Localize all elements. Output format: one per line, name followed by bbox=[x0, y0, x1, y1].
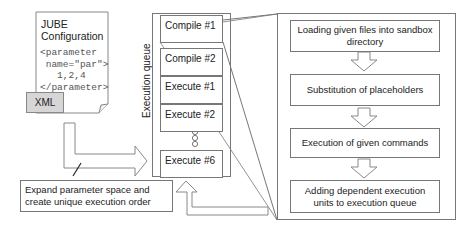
queue-item-execute-6: Execute #6 bbox=[160, 150, 223, 178]
queue-label: Execution queue bbox=[141, 43, 152, 118]
feedback-arrow bbox=[176, 181, 268, 215]
expand-caption: Expand parameter space and create unique… bbox=[20, 180, 173, 212]
step-loading-files: Loading given files into sandbox directo… bbox=[290, 20, 440, 52]
xml-tag: XML bbox=[26, 92, 64, 113]
config-code: <parameter name="par"> 1,2,4 </parameter… bbox=[40, 47, 108, 93]
title-line-2: Configuration bbox=[41, 30, 103, 42]
queue-item-execute-2: Execute #2 bbox=[160, 104, 223, 132]
queue-item-execute-1: Execute #1 bbox=[160, 76, 223, 104]
config-document-title: JUBE Configuration bbox=[41, 18, 103, 42]
queue-item-compile-2: Compile #2 bbox=[160, 48, 223, 76]
step-substitution: Substitution of placeholders bbox=[290, 74, 440, 106]
step-adding-dependents: Adding dependent execution units to exec… bbox=[290, 180, 440, 213]
expand-arrow bbox=[64, 123, 147, 176]
queue-item-compile-1: Compile #1 bbox=[160, 15, 223, 43]
title-line-1: JUBE bbox=[41, 18, 103, 30]
step-execution: Execution of given commands bbox=[290, 128, 440, 158]
